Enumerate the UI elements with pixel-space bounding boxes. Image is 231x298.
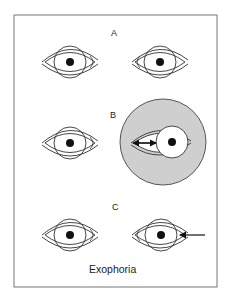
panel-c-left-eye (42, 219, 98, 251)
panel-b-label: B (110, 110, 116, 120)
panel-b-covered-eye (120, 99, 206, 185)
panel-b-left-eye (42, 127, 98, 159)
panel-c-label: C (112, 202, 119, 212)
figure-caption: Exophoria (89, 263, 136, 275)
panel-a-right-eye (132, 46, 188, 78)
exophoria-diagram (0, 0, 231, 298)
panel-a-left-eye (42, 46, 98, 78)
panel-c-right-eye (132, 219, 205, 251)
panel-a-label: A (111, 28, 117, 38)
